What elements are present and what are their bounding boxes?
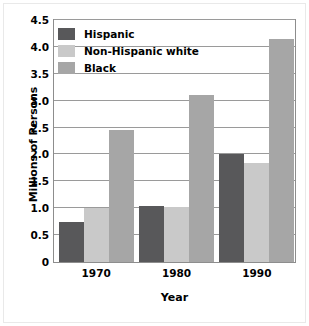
bar [244, 163, 269, 262]
legend-swatch [58, 45, 75, 57]
y-axis-tick-label: 0 [15, 256, 49, 268]
bar [109, 130, 134, 262]
x-axis-tick-labels: 197019801990 [53, 267, 296, 283]
y-axis-tick-label: 4.0 [15, 41, 49, 53]
legend-item: Non-Hispanic white [58, 43, 199, 59]
chart-figure: Millions of Persons 00.51.01.52.02.53.03… [0, 0, 309, 326]
y-axis-tick-label: 3.0 [15, 95, 49, 107]
legend-item: Hispanic [58, 26, 199, 42]
legend-label: Non-Hispanic white [84, 45, 199, 57]
bar-group [219, 20, 294, 262]
x-axis-title: Year [53, 291, 296, 304]
y-axis-tick-label: 1.5 [15, 175, 49, 187]
legend-label: Black [84, 62, 116, 74]
x-axis-tick-label: 1970 [82, 267, 111, 279]
y-axis-tick-label: 3.5 [15, 68, 49, 80]
y-axis-tick-label: 1.0 [15, 202, 49, 214]
legend-label: Hispanic [84, 28, 135, 40]
x-axis-tick-label: 1980 [162, 267, 191, 279]
legend-item: Black [58, 60, 199, 76]
bar [59, 222, 84, 262]
bar [164, 207, 189, 262]
y-axis-tick-label: 4.5 [15, 14, 49, 26]
y-axis-tick-label: 2.0 [15, 148, 49, 160]
y-axis-tick-labels: 00.51.01.52.02.53.03.54.04.5 [12, 19, 49, 263]
bar [219, 154, 244, 262]
y-axis-tick-label: 2.5 [15, 122, 49, 134]
x-axis-tick-label: 1990 [242, 267, 271, 279]
bar [84, 208, 109, 262]
legend-swatch [58, 62, 75, 74]
bar [189, 95, 214, 262]
chart-legend: HispanicNon-Hispanic whiteBlack [58, 26, 199, 77]
legend-swatch [58, 28, 75, 40]
bar [139, 206, 164, 262]
bar [269, 39, 294, 262]
y-axis-tick-label: 0.5 [15, 229, 49, 241]
